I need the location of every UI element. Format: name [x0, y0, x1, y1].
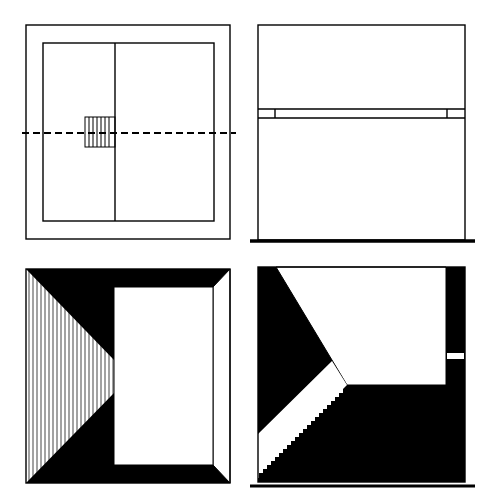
section-window-notch — [447, 353, 464, 359]
interior-view-panel — [26, 269, 230, 483]
interior-right-bevel — [213, 269, 230, 483]
section-panel — [250, 267, 475, 486]
interior-back-wall — [114, 287, 213, 465]
elevation-outline — [258, 25, 465, 240]
plan-panel — [22, 25, 236, 239]
architectural-drawing-sheet — [0, 0, 492, 494]
elevation-panel — [250, 25, 475, 241]
